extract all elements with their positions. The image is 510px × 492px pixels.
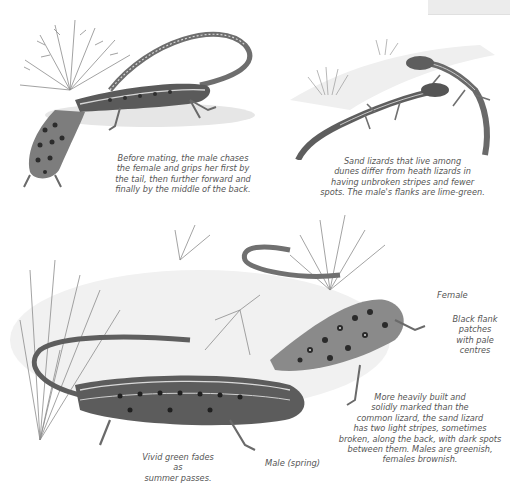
caption-line: More heavily built and [330, 392, 510, 402]
caption-line: Sand lizards that live among [300, 156, 505, 166]
field-guide-page: Before mating, the male chases the femal… [0, 0, 510, 492]
caption-line: dunes differ from heath lizards in [300, 166, 505, 176]
caption-mating: Before mating, the male chases the femal… [108, 153, 258, 195]
label-male-spring: Male (spring) [265, 458, 320, 468]
caption-line: has two light stripes, sometimes [330, 423, 510, 433]
caption-line: having unbroken stripes and fewer [300, 177, 505, 187]
label-female: Female [437, 290, 468, 300]
caption-dunes: Sand lizards that live among dunes diffe… [300, 156, 505, 198]
page-corner-tab [428, 0, 510, 15]
caption-fade: Vivid green fades as summer passes. [138, 452, 218, 483]
caption-flank-patches: Black flank patches with pale centres [445, 314, 505, 356]
caption-description: More heavily built and solidly marked th… [330, 392, 510, 465]
caption-line: Vivid green fades as [138, 452, 218, 473]
caption-line: with pale [445, 335, 505, 345]
caption-line: Before mating, the male chases [108, 153, 258, 163]
caption-line: broken, along the back, with dark spots [330, 434, 510, 444]
caption-line: the tail, then further forward and [108, 174, 258, 184]
caption-line: the female and grips her first by [108, 163, 258, 173]
caption-line: between them. Males are greenish, [330, 444, 510, 454]
caption-line: solidly marked than the [330, 402, 510, 412]
caption-line: common lizard, the sand lizard [330, 413, 510, 423]
caption-line: summer passes. [138, 473, 218, 483]
caption-line: Black flank [445, 314, 505, 324]
caption-line: females brownish. [330, 454, 510, 464]
dune-pair-illustration [280, 30, 510, 160]
caption-line: centres [445, 345, 505, 355]
caption-line: patches [445, 324, 505, 334]
caption-line: finally by the middle of the back. [108, 184, 258, 194]
caption-line: spots. The male's flanks are lime-green. [300, 187, 505, 197]
